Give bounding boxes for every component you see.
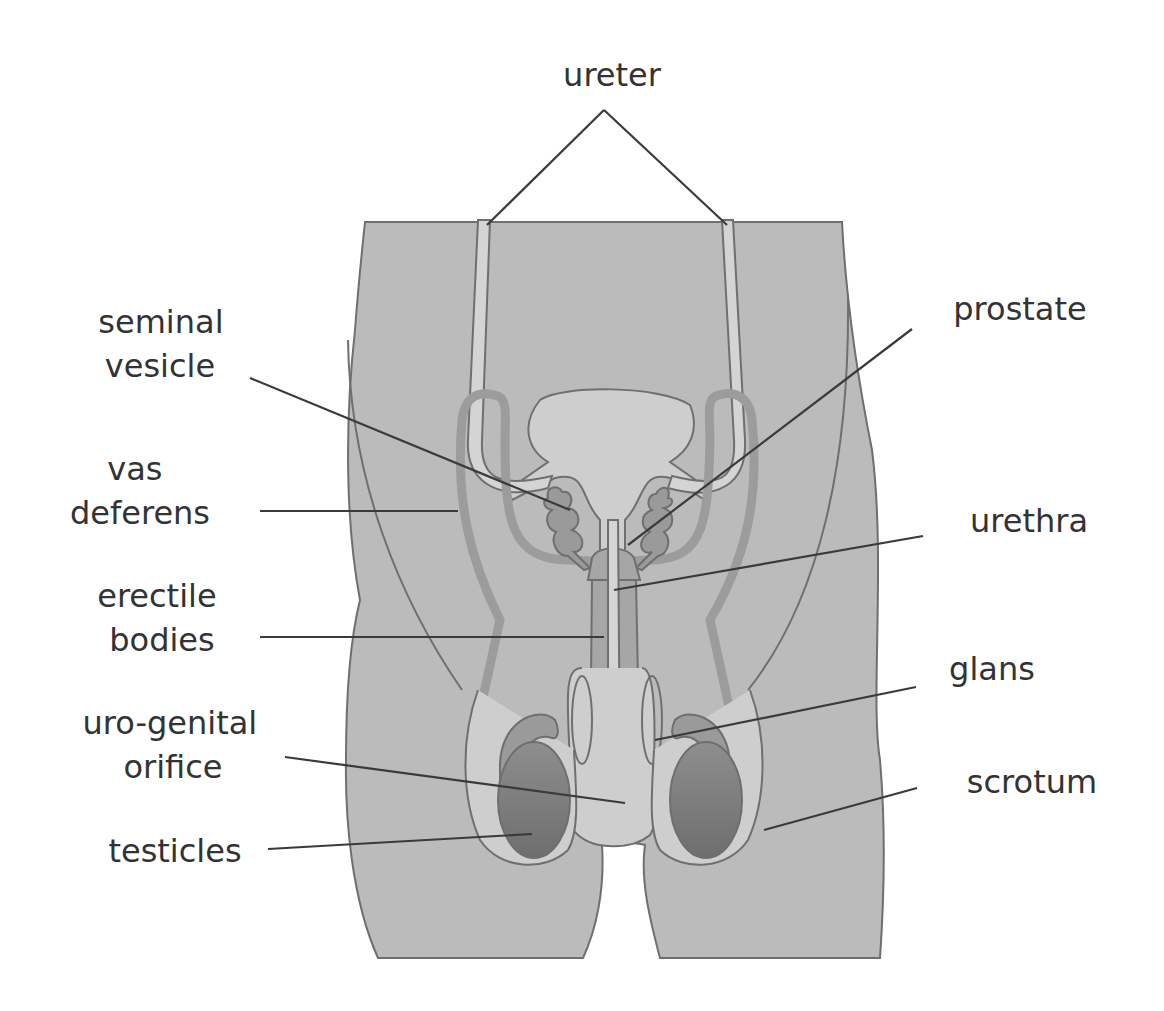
label-vas-deferens: vas deferens [70, 450, 210, 532]
label-seminal: seminal [98, 303, 223, 341]
right-testicle [670, 742, 742, 858]
label-ureter: ureter [563, 56, 662, 94]
label-urethra: urethra [970, 502, 1088, 540]
anatomy-diagram: ureter seminal vesicle vas deferens erec… [0, 0, 1164, 1011]
label-seminal-vesicle: seminal vesicle [98, 303, 233, 385]
label-prostate: prostate [953, 290, 1086, 328]
left-penile-fold [568, 668, 655, 846]
label-orifice: orifice [123, 748, 222, 786]
label-testicles: testicles [108, 832, 241, 870]
label-uro-genital-orifice: uro-genital orifice [83, 704, 268, 786]
label-erectile-bodies: erectile bodies [97, 577, 227, 659]
label-vas: vas [107, 450, 162, 488]
label-erectile: erectile [97, 577, 216, 615]
label-deferens: deferens [70, 494, 210, 532]
label-glans: glans [949, 650, 1035, 688]
label-scrotum: scrotum [967, 763, 1097, 801]
leader-ureter-right [604, 110, 727, 225]
label-uro-genital: uro-genital [83, 704, 258, 742]
leader-ureter-left [487, 110, 604, 225]
label-vesicle: vesicle [105, 347, 215, 385]
left-testicle [498, 742, 570, 858]
label-bodies: bodies [109, 621, 214, 659]
